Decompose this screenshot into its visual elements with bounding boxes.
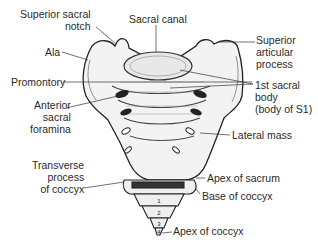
label-apex-of-sacrum: Apex of sacrum — [207, 172, 280, 184]
label-line: Superior — [256, 34, 296, 46]
label-line: Superior sacral — [20, 8, 91, 20]
label-apex-of-coccyx: Apex of coccyx — [173, 225, 244, 237]
label-promontory: Promontory — [11, 76, 65, 88]
label-line: 1st sacral — [255, 79, 312, 91]
label-line: articular — [256, 46, 296, 58]
label-line: Anterior — [30, 99, 71, 111]
label-first-sacral-body: 1st sacral body (body of S1) — [255, 79, 312, 115]
label-sacral-canal: Sacral canal — [129, 13, 187, 25]
label-line: notch — [20, 20, 91, 32]
label-line: body — [255, 91, 312, 103]
label-ala: Ala — [45, 46, 60, 58]
label-superior-articular-process: Superior articular process — [256, 34, 296, 70]
label-transverse-process-of-coccyx: Transverse process of coccyx — [32, 159, 84, 195]
label-line: Transverse — [32, 159, 84, 171]
label-line: sacral — [30, 111, 71, 123]
label-anterior-sacral-foramina: Anterior sacral foramina — [30, 99, 71, 135]
label-superior-sacral-notch: Superior sacral notch — [20, 8, 91, 32]
label-line: foramina — [30, 123, 71, 135]
label-line: process — [256, 58, 296, 70]
label-line: (body of S1) — [255, 103, 312, 115]
label-line: process — [32, 171, 84, 183]
label-lateral-mass: Lateral mass — [232, 129, 292, 141]
label-line: of coccyx — [32, 183, 84, 195]
label-base-of-coccyx: Base of coccyx — [202, 190, 273, 202]
